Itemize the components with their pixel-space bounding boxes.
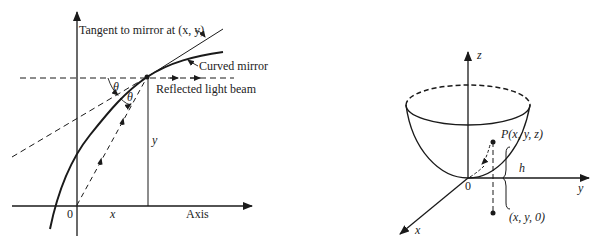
diagram-canvas: Tangent to mirror at (x, y) Curved mirro… bbox=[0, 0, 600, 251]
y-label: y bbox=[151, 133, 158, 147]
x-axis-label: x bbox=[414, 223, 421, 237]
origin-label-3d: 0 bbox=[465, 179, 471, 193]
axis-label: Axis bbox=[186, 207, 209, 221]
theta-label-2: θ bbox=[127, 90, 133, 104]
y-axis-label: y bbox=[577, 181, 584, 195]
tangent-line-dashed bbox=[12, 77, 147, 157]
p-arrow bbox=[482, 145, 490, 164]
tangency-point bbox=[145, 75, 150, 80]
x-label: x bbox=[109, 207, 116, 221]
point-p-label: P(x, y, z) bbox=[500, 127, 543, 141]
point-projection bbox=[491, 211, 496, 216]
curved-mirror-label: Curved mirror bbox=[199, 59, 268, 73]
x-axis bbox=[400, 178, 468, 234]
mirror-leader bbox=[188, 60, 198, 66]
projection-label: (x, y, 0) bbox=[509, 210, 545, 224]
incoming-ray-arrow-1 bbox=[98, 158, 103, 166]
origin-label: 0 bbox=[67, 207, 73, 221]
tangent-label: Tangent to mirror at (x, y) bbox=[79, 23, 204, 37]
height-label: h bbox=[519, 161, 525, 175]
z-axis-label: z bbox=[476, 48, 482, 62]
reflected-beam-label: Reflected light beam bbox=[156, 82, 257, 96]
curved-mirror bbox=[50, 52, 223, 229]
incoming-ray-arrow-2 bbox=[120, 118, 125, 126]
parabolic-mirror-cross-section: Tangent to mirror at (x, y) Curved mirro… bbox=[12, 12, 268, 236]
theta-label-1: θ bbox=[113, 80, 119, 94]
paraboloid-3d: z y x 0 P(x, y, z) h (x, y, 0) bbox=[400, 48, 589, 237]
